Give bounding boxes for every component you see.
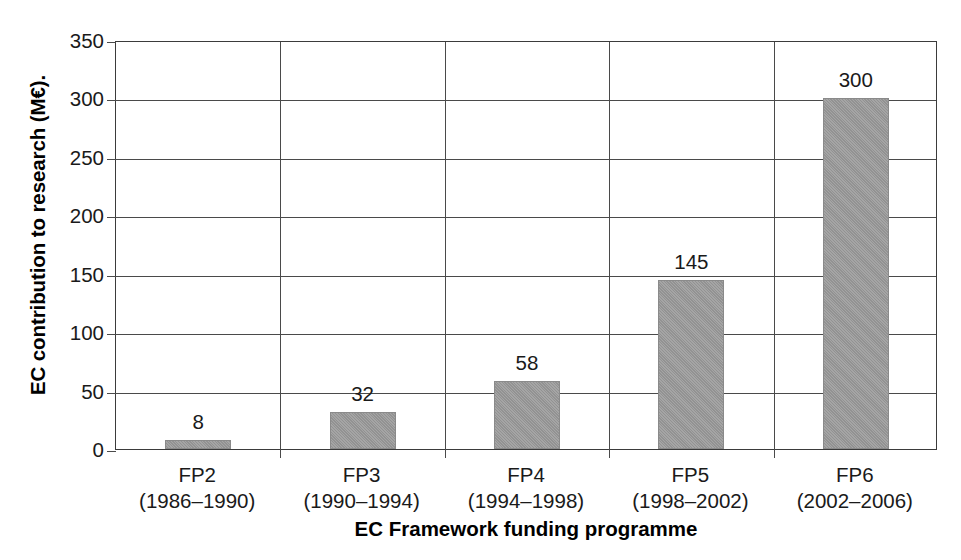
bar-value-label: 32 xyxy=(351,382,374,406)
y-axis-tick-label: 100 xyxy=(34,321,104,345)
y-axis-tick-mark xyxy=(107,334,116,335)
category-separator xyxy=(445,42,446,449)
y-axis-tick-label: 150 xyxy=(34,263,104,287)
category-period: (2002–2006) xyxy=(797,488,913,514)
x-axis-category-label: FP5(1998–2002) xyxy=(632,462,748,514)
y-axis-tick-label: 200 xyxy=(34,204,104,228)
bar-value-label: 58 xyxy=(516,351,539,375)
category-name: FP2 xyxy=(178,463,216,486)
bar-value-label: 8 xyxy=(192,410,203,434)
gridline xyxy=(116,276,936,277)
category-separator xyxy=(609,42,610,449)
y-axis-tick-label: 0 xyxy=(34,438,104,462)
bar xyxy=(330,412,396,449)
y-axis-tick-mark xyxy=(107,42,116,43)
gridline xyxy=(116,217,936,218)
gridline xyxy=(116,334,936,335)
x-axis-tick-mark xyxy=(280,449,281,458)
bar xyxy=(165,440,231,449)
category-period: (1998–2002) xyxy=(632,488,748,514)
category-period: (1990–1994) xyxy=(303,488,419,514)
bar xyxy=(823,98,889,449)
y-axis-tick-label: 350 xyxy=(34,29,104,53)
category-name: FP5 xyxy=(672,463,710,486)
y-axis-tick-labels: 050100150200250300350 xyxy=(34,0,104,560)
x-axis-tick-mark xyxy=(609,449,610,458)
x-axis-category-label: FP3(1990–1994) xyxy=(303,462,419,514)
category-period: (1994–1998) xyxy=(468,488,584,514)
category-name: FP4 xyxy=(507,463,545,486)
bar xyxy=(658,280,724,449)
category-name: FP6 xyxy=(836,463,874,486)
x-axis-tick-mark xyxy=(445,449,446,458)
y-axis-tick-mark xyxy=(107,451,116,452)
category-separator xyxy=(774,42,775,449)
x-axis-category-label: FP4(1994–1998) xyxy=(468,462,584,514)
category-separator xyxy=(280,42,281,449)
category-name: FP3 xyxy=(343,463,381,486)
y-axis-tick-mark xyxy=(107,100,116,101)
y-axis-tick-mark xyxy=(107,159,116,160)
x-axis-category-label: FP2(1986–1990) xyxy=(139,462,255,514)
y-axis-tick-label: 300 xyxy=(34,87,104,111)
gridline xyxy=(116,100,936,101)
plot-area: 83258145300 xyxy=(115,41,937,450)
x-axis-tick-mark xyxy=(774,449,775,458)
gridline xyxy=(116,159,936,160)
bar-value-label: 300 xyxy=(839,68,873,92)
y-axis-tick-mark xyxy=(107,393,116,394)
bar xyxy=(494,381,560,449)
x-axis-category-label: FP6(2002–2006) xyxy=(797,462,913,514)
y-axis-tick-label: 250 xyxy=(34,146,104,170)
y-axis-tick-mark xyxy=(107,217,116,218)
y-axis-tick-label: 50 xyxy=(34,380,104,404)
bar-value-label: 145 xyxy=(674,250,708,274)
x-axis-title: EC Framework funding programme xyxy=(115,517,937,541)
category-period: (1986–1990) xyxy=(139,488,255,514)
bar-chart-figure: EC contribution to research (M€). 050100… xyxy=(0,0,961,560)
y-axis-tick-mark xyxy=(107,276,116,277)
